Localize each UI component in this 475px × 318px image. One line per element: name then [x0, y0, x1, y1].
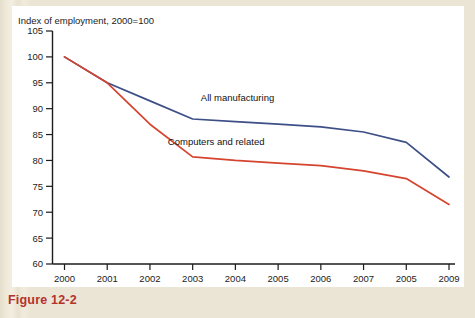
x-tick-label: 2007	[353, 273, 374, 284]
y-tick-label: 60	[32, 258, 43, 269]
chart-title: Index of employment, 2000=100	[18, 15, 154, 26]
figure-container: Index of employment, 2000=100 6065707580…	[0, 0, 475, 318]
y-tick-label: 100	[27, 51, 43, 62]
y-tick-label: 105	[27, 25, 43, 36]
x-tick-label: 2003	[182, 273, 203, 284]
x-tick-label: 2005	[268, 273, 289, 284]
y-tick-label: 65	[32, 233, 43, 244]
x-tick-label: 2006	[310, 273, 331, 284]
x-tick-label: 2000	[54, 273, 75, 284]
figure-caption: Figure 12-2	[8, 293, 77, 307]
x-tick-label: 2001	[97, 273, 118, 284]
y-tick-label: 80	[32, 155, 43, 166]
y-tick-label: 85	[32, 129, 43, 140]
y-tick-label: 90	[32, 103, 43, 114]
x-tick-label: 2005	[396, 273, 417, 284]
series-label-computers-and-related: Computers and related	[168, 136, 265, 147]
x-tick-label: 2002	[139, 273, 160, 284]
series-label-all-manufacturing: All manufacturing	[201, 92, 274, 103]
employment-index-line-chart: Index of employment, 2000=100 6065707580…	[12, 6, 464, 287]
y-tick-label: 75	[32, 181, 43, 192]
y-tick-label: 70	[32, 207, 43, 218]
x-tick-label: 2009	[438, 273, 459, 284]
x-tick-label: 2004	[225, 273, 246, 284]
caption-bar: Figure 12-2	[0, 292, 475, 318]
y-tick-label: 95	[32, 77, 43, 88]
